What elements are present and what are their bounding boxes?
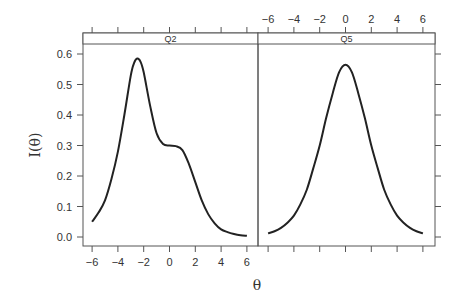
- y-tick-label: 0.3: [57, 140, 72, 152]
- x-tick-label-top: 0: [342, 13, 348, 25]
- x-tick-label-top: 4: [394, 13, 400, 25]
- curve-q2: [92, 59, 247, 236]
- x-tick-label-top: −4: [288, 13, 301, 25]
- x-tick-label-top: 2: [368, 13, 374, 25]
- y-tick-label: 0.4: [57, 109, 72, 121]
- strip-label-q5: Q5: [340, 34, 352, 44]
- x-tick-label: 4: [218, 256, 224, 268]
- axis-ticks: −6−4−20246−6−4−202460.00.10.20.30.40.50.…: [57, 13, 441, 268]
- y-tick-label: 0.0: [57, 231, 72, 243]
- strip-label-q2: Q2: [164, 34, 176, 44]
- y-axis-title: I(θ): [27, 133, 43, 158]
- x-tick-label: 0: [166, 256, 172, 268]
- panel-frames: [83, 33, 435, 246]
- x-tick-label: −4: [112, 256, 125, 268]
- x-tick-label: −6: [86, 256, 99, 268]
- chart-svg: Q2Q5 −6−4−20246−6−4−202460.00.10.20.30.4…: [0, 0, 460, 305]
- panel-frame-q2: [83, 33, 258, 246]
- x-tick-label-top: −6: [262, 13, 275, 25]
- x-tick-label: 6: [244, 256, 250, 268]
- x-tick-label: −2: [137, 256, 150, 268]
- panel-strips: Q2Q5: [83, 33, 435, 44]
- x-tick-label: 2: [192, 256, 198, 268]
- y-tick-label: 0.5: [57, 79, 72, 91]
- y-tick-label: 0.2: [57, 170, 72, 182]
- x-axis-title: θ: [253, 277, 261, 293]
- y-tick-label: 0.1: [57, 201, 72, 213]
- y-tick-label: 0.6: [57, 48, 72, 60]
- x-tick-label-top: 6: [420, 13, 426, 25]
- x-tick-label-top: −2: [313, 13, 326, 25]
- curve-q5: [268, 65, 423, 234]
